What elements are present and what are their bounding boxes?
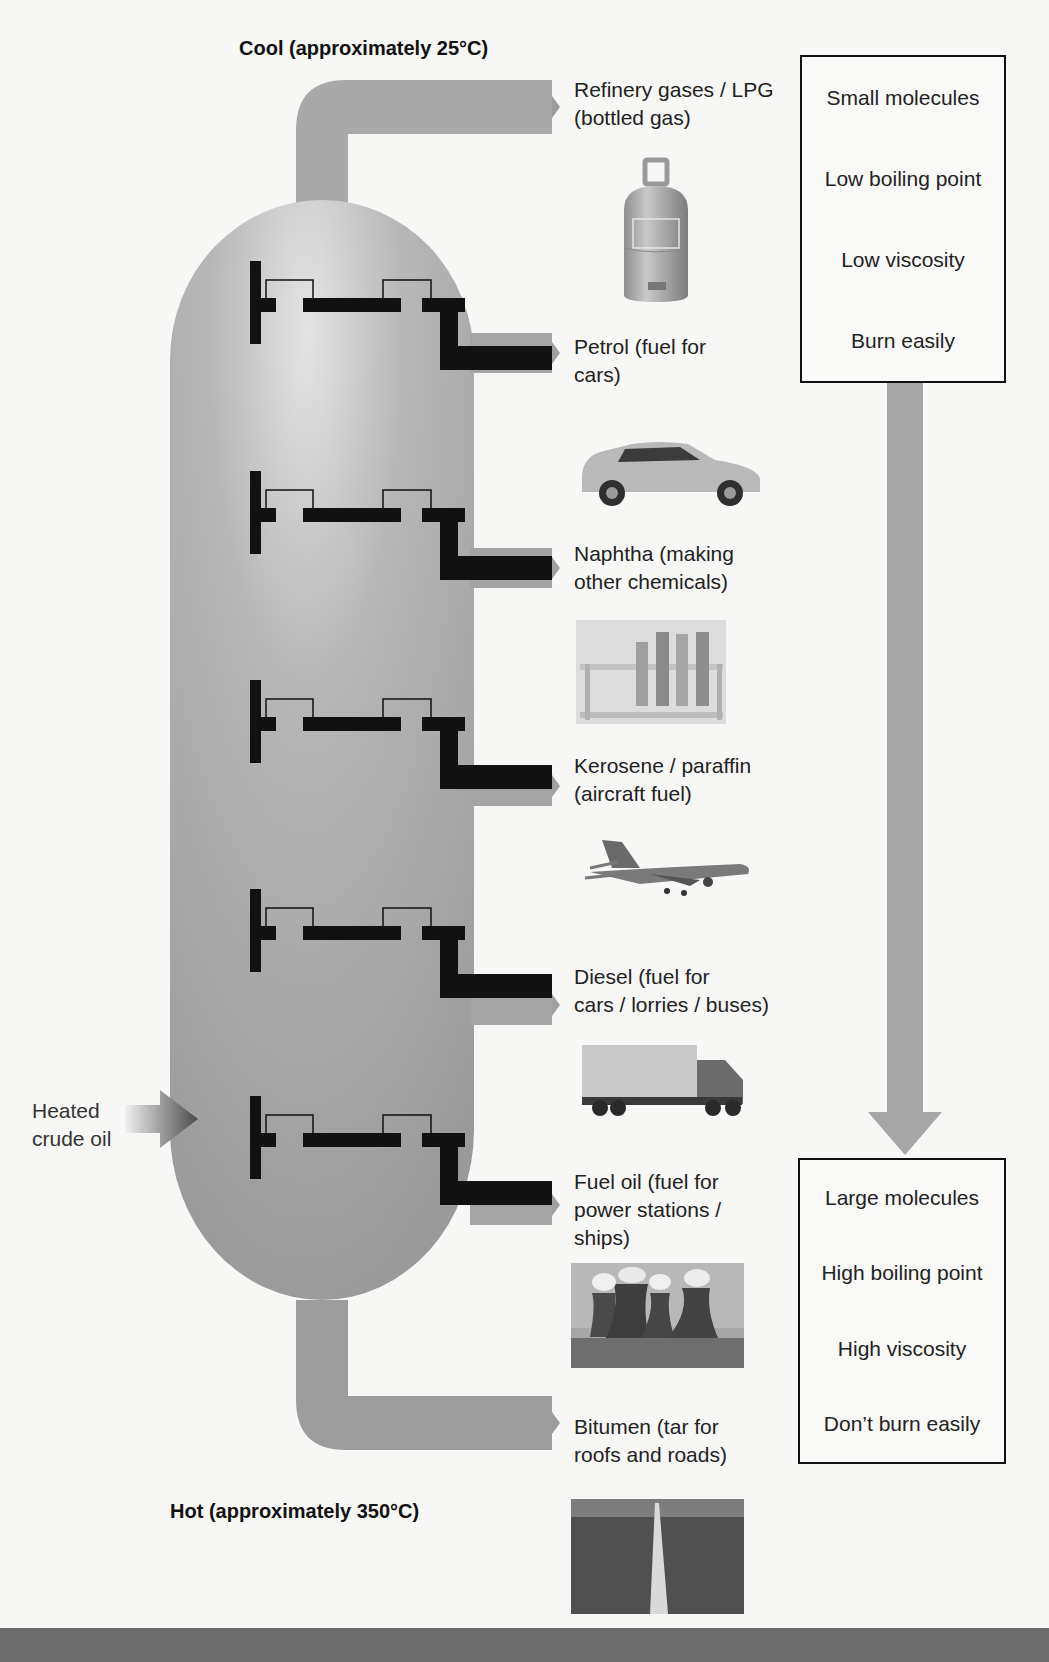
fraction-line: Kerosene / paraffin (574, 752, 751, 780)
airplane-icon (585, 840, 749, 896)
top-temperature-label: Cool (approximately 25°C) (239, 37, 488, 60)
crude-oil-label-line2: crude oil (32, 1125, 111, 1153)
top-pipe (296, 80, 560, 210)
fraction-label-refinery-gases: Refinery gases / LPG (bottled gas) (574, 76, 774, 132)
fraction-line: cars) (574, 361, 706, 389)
fraction-label-petrol: Petrol (fuel for cars) (574, 333, 706, 389)
fraction-line: power stations / (574, 1196, 721, 1224)
lorry-icon (582, 1045, 743, 1116)
fraction-label-fuel-oil: Fuel oil (fuel for power stations / ship… (574, 1168, 721, 1252)
fraction-line: (aircraft fuel) (574, 780, 751, 808)
fraction-line: roofs and roads) (574, 1441, 727, 1469)
fraction-line: (bottled gas) (574, 104, 774, 132)
property-item: Burn easily (851, 329, 955, 353)
fraction-label-naphtha: Naphtha (making other chemicals) (574, 540, 734, 596)
property-item: Large molecules (825, 1186, 979, 1210)
property-item: Low boiling point (825, 167, 981, 191)
fraction-line: Diesel (fuel for (574, 963, 769, 991)
fraction-label-bitumen: Bitumen (tar for roofs and roads) (574, 1413, 727, 1469)
bottom-temperature-label: Hot (approximately 350°C) (170, 1500, 419, 1523)
trend-arrow-down-icon (868, 380, 942, 1155)
fraction-line: ships) (574, 1224, 721, 1252)
crude-oil-input-label: Heated crude oil (32, 1097, 111, 1153)
road-icon (571, 1499, 744, 1614)
top-properties-box: Small molecules Low boiling point Low vi… (800, 55, 1006, 383)
bottom-pipe (296, 1300, 560, 1450)
fraction-line: Refinery gases / LPG (574, 76, 774, 104)
fraction-label-kerosene: Kerosene / paraffin (aircraft fuel) (574, 752, 751, 808)
property-item: Don’t burn easily (824, 1412, 980, 1436)
footer-bar (0, 1628, 1049, 1662)
bottom-properties-box: Large molecules High boiling point High … (798, 1158, 1006, 1464)
fraction-line: Bitumen (tar for (574, 1413, 727, 1441)
property-item: High viscosity (838, 1337, 966, 1361)
fraction-line: cars / lorries / buses) (574, 991, 769, 1019)
fraction-line: other chemicals) (574, 568, 734, 596)
crude-oil-label-line1: Heated (32, 1097, 111, 1125)
power-station-icon (571, 1263, 744, 1368)
property-item: High boiling point (821, 1261, 982, 1285)
outlet-arrowheads (552, 342, 560, 1216)
fraction-line: Fuel oil (fuel for (574, 1168, 721, 1196)
property-item: Small molecules (827, 86, 980, 110)
car-icon (582, 442, 760, 506)
test-tubes-icon (576, 620, 726, 724)
fraction-line: Naphtha (making (574, 540, 734, 568)
fraction-line: Petrol (fuel for (574, 333, 706, 361)
property-item: Low viscosity (841, 248, 965, 272)
fraction-label-diesel: Diesel (fuel for cars / lorries / buses) (574, 963, 769, 1019)
gas-bottle-icon (624, 160, 688, 302)
